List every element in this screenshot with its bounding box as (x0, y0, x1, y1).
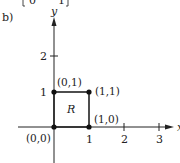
vertex-label-1-1: (1,1) (95, 85, 120, 97)
vertex-0-1 (51, 89, 56, 94)
svg-text:0: 0 (29, 0, 36, 7)
coordinate-diagram: 0 1 b) y x 2 1 1 2 3 R (0,0) (1,0) (1,1)… (0, 0, 180, 163)
x-tick-label-2: 2 (121, 133, 128, 146)
x-axis-label: x (177, 121, 180, 134)
y-axis-label: y (50, 5, 58, 18)
x-axis-arrow-icon (165, 125, 174, 130)
y-tick-label-1: 1 (40, 86, 47, 99)
vertex-1-0 (86, 124, 91, 129)
vertex-label-0-1: (0,1) (57, 76, 82, 88)
matrix-fragment: 0 1 (23, 0, 68, 7)
x-tick-label-1: 1 (86, 133, 93, 146)
svg-text:1: 1 (58, 0, 65, 7)
vertex-1-1 (86, 89, 91, 94)
part-label: b) (2, 11, 13, 24)
region-label: R (66, 103, 75, 116)
vertex-label-1-0: (1,0) (94, 113, 119, 125)
y-tick-label-2: 2 (40, 50, 47, 63)
x-tick-label-3: 3 (156, 133, 163, 146)
vertex-origin (51, 124, 56, 129)
vertex-label-origin: (0,0) (26, 132, 51, 144)
y-axis-arrow-icon (52, 17, 57, 26)
